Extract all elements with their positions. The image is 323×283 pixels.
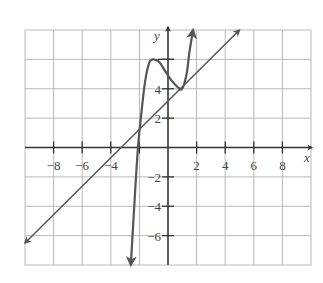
- x-tick-label: −4: [104, 158, 118, 173]
- y-tick-label: −4: [147, 199, 161, 214]
- x-tick-label: 8: [279, 158, 286, 173]
- x-tick-label: −6: [75, 158, 89, 173]
- y-tick-label: −2: [147, 170, 161, 185]
- x-tick-label: 2: [193, 158, 200, 173]
- axes: [25, 27, 312, 265]
- y-tick-label: −6: [147, 229, 161, 244]
- line-series: [25, 30, 240, 243]
- x-axis-label: x: [303, 150, 310, 165]
- x-tick-label: 6: [251, 158, 258, 173]
- graph: −8−6−42468−6−4−224 x y: [0, 0, 323, 283]
- y-axis-label: y: [152, 28, 160, 43]
- y-tick-label: 4: [155, 82, 162, 97]
- x-tick-label: −8: [47, 158, 61, 173]
- x-tick-label: 4: [222, 158, 229, 173]
